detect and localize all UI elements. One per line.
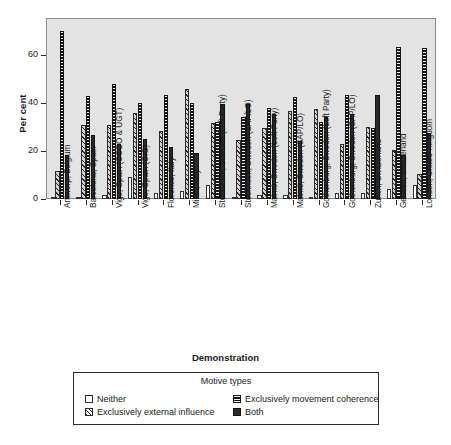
- y-tick-label: 40: [8, 97, 38, 107]
- bar-external: [236, 140, 240, 199]
- legend-label-external: Exclusively external influence: [97, 407, 215, 417]
- x-axis-title: Demonstration: [0, 352, 451, 363]
- bar-neither: [206, 185, 210, 199]
- y-tick-mark: [41, 151, 46, 152]
- bar-chart-figure: Per cent 0204060 Antwerp, BelgiumBarcelo…: [0, 0, 451, 445]
- y-tick-label: 60: [8, 49, 38, 59]
- x-tick-mark: [344, 200, 345, 205]
- x-tick-label: Vigo, Spain (CIG): [141, 145, 150, 208]
- x-tick-mark: [215, 200, 216, 205]
- x-tick-label: Barcelona, Spain: [89, 146, 98, 208]
- x-tick-mark: [112, 200, 113, 205]
- bar-neither: [309, 197, 313, 199]
- bar-neither: [51, 197, 55, 199]
- bar-neither: [232, 197, 236, 199]
- y-tick-mark: [41, 103, 46, 104]
- legend-item-external: Exclusively external influence: [85, 407, 215, 417]
- bar-external: [314, 109, 318, 199]
- legend-title: Motive types: [74, 376, 378, 386]
- bar-neither: [283, 195, 287, 199]
- x-tick-label: Gothenburg, Sweden (SAP/LO): [348, 95, 357, 208]
- x-tick-mark: [86, 200, 87, 205]
- bar-external: [340, 144, 344, 199]
- y-tick-label: 20: [8, 145, 38, 155]
- bar-external: [185, 89, 189, 199]
- legend-swatch-both: [233, 408, 241, 416]
- bar-neither: [128, 177, 132, 199]
- x-tick-label: Gothenburg, Sweden (Left Party): [322, 89, 331, 208]
- x-tick-label: Milan, Italy: [192, 169, 201, 208]
- legend-item-neither: Neither: [85, 394, 126, 404]
- x-tick-mark: [267, 200, 268, 205]
- x-tick-mark: [293, 200, 294, 205]
- bar-neither: [180, 191, 184, 199]
- bar-external: [55, 171, 59, 199]
- bar-external: [211, 123, 215, 199]
- bar-external: [133, 113, 137, 199]
- x-tick-label: Geneva, Switzerland: [399, 133, 408, 208]
- legend-label-coherence: Exclusively movement coherence: [245, 394, 379, 404]
- bar-external: [262, 128, 266, 199]
- legend-swatch-neither: [85, 395, 93, 403]
- bar-external: [107, 125, 111, 199]
- bar-neither: [413, 185, 417, 199]
- x-tick-mark: [60, 200, 61, 205]
- x-tick-mark: [319, 200, 320, 205]
- legend-label-neither: Neither: [97, 394, 126, 404]
- y-axis-title: Per cent: [17, 84, 28, 144]
- x-tick-mark: [163, 200, 164, 205]
- bar-neither: [154, 193, 158, 199]
- x-tick-label: Stockholm, Sweden (Left Party): [218, 94, 227, 208]
- y-tick-mark: [41, 199, 46, 200]
- legend: Motive types Neither Exclusively movemen…: [73, 372, 379, 425]
- x-tick-label: Zurich, Switzerland: [374, 139, 383, 208]
- bar-neither: [361, 193, 365, 199]
- x-tick-mark: [189, 200, 190, 205]
- bar-external: [392, 150, 396, 199]
- bar-neither: [76, 197, 80, 199]
- legend-item-both: Both: [233, 407, 264, 417]
- x-tick-mark: [422, 200, 423, 205]
- bar-neither: [387, 189, 391, 199]
- y-tick-label: 0: [8, 193, 38, 203]
- x-tick-mark: [370, 200, 371, 205]
- x-tick-mark: [396, 200, 397, 205]
- legend-swatch-coherence: [233, 395, 241, 403]
- bar-external: [288, 111, 292, 199]
- legend-item-coherence: Exclusively movement coherence: [233, 394, 379, 404]
- x-tick-label: Malmö, Sweden (SAP/LO): [296, 113, 305, 208]
- bar-external: [81, 125, 85, 199]
- x-tick-label: Vigo, Spain (CCOO & UGT): [115, 108, 124, 208]
- bar-external: [417, 174, 421, 199]
- y-tick-mark: [41, 55, 46, 56]
- x-tick-label: London, United Kingdom: [425, 119, 434, 208]
- x-tick-label: Stockholm, Sweden (SAP/LO): [244, 100, 253, 208]
- bar-neither: [102, 195, 106, 199]
- bar-external: [159, 131, 163, 199]
- bar-external: [366, 127, 370, 199]
- bar-neither: [335, 193, 339, 199]
- x-tick-label: Malmö, Sweden (Left Party): [270, 108, 279, 208]
- x-tick-mark: [138, 200, 139, 205]
- legend-label-both: Both: [245, 407, 264, 417]
- x-tick-label: Florence, Italy: [167, 157, 176, 208]
- x-tick-label: Antwerp, Belgium: [63, 145, 72, 208]
- x-tick-mark: [241, 200, 242, 205]
- bar-neither: [257, 195, 261, 199]
- legend-swatch-external: [85, 408, 93, 416]
